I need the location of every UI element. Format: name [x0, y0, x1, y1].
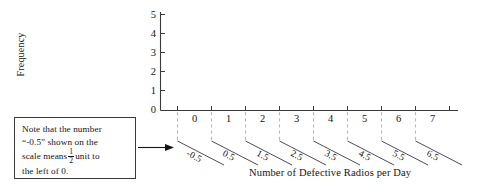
x-tick-label: 5 [357, 113, 373, 124]
fraction-denominator: 2 [68, 157, 74, 165]
y-tick-label: 4 [144, 28, 156, 39]
y-tick-label: 1 [144, 85, 156, 96]
y-tick-label: 0 [144, 104, 156, 115]
histogram-figure: Frequency 5 4 3 2 1 0 0 1 2 3 4 5 6 7 -0… [0, 0, 484, 194]
x-tick-label: 6 [391, 113, 407, 124]
annotation-note-box: Note that the number “-0.5” shown on the… [14, 117, 136, 179]
x-tick-label: 3 [289, 113, 305, 124]
x-tick-label: 1 [221, 113, 237, 124]
y-tick-marks [161, 15, 166, 91]
x-tick-marks [178, 106, 450, 111]
annotation-line-4: the left of 0. [22, 166, 68, 176]
y-tick-label: 5 [144, 9, 156, 20]
annotation-text: Note that the number “-0.5” shown on the… [22, 123, 128, 177]
x-tick-label: 2 [255, 113, 271, 124]
annotation-arrow [138, 144, 174, 151]
annotation-line-1: Note that the number [22, 124, 102, 134]
y-tick-label: 3 [144, 47, 156, 58]
y-axis-title: Frequency [15, 16, 26, 94]
annotation-line-3-before: scale means [22, 151, 67, 161]
one-half-fraction: 12 [68, 148, 74, 164]
x-axis-title: Number of Defective Radios per Day [249, 167, 411, 178]
x-tick-label: 7 [425, 113, 441, 124]
boundary-leader-lines [178, 141, 463, 165]
annotation-line-3-after: unit to [75, 151, 99, 161]
x-tick-label: 4 [323, 113, 339, 124]
annotation-line-2: “-0.5” shown on the [22, 137, 98, 147]
y-tick-label: 2 [144, 66, 156, 77]
x-tick-label: 0 [187, 113, 203, 124]
